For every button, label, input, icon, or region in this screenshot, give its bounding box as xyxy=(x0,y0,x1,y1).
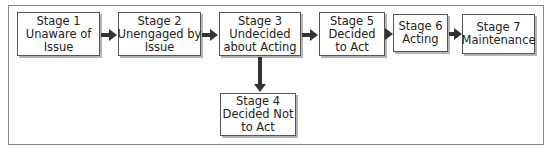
stage-1-line-2: Issue xyxy=(44,41,74,54)
stage-5-title: Stage 5 xyxy=(330,15,374,28)
stage-7-line-1: Maintenance xyxy=(461,34,535,47)
stage-7-box: Stage 7 Maintenance xyxy=(462,14,535,54)
stage-2-title: Stage 2 xyxy=(137,15,181,28)
arrow-stage6-to-stage7 xyxy=(449,32,455,36)
stage-3-line-1: Undecided xyxy=(229,28,290,41)
arrow-stage1-to-stage2 xyxy=(101,33,110,37)
stage-5-box: Stage 5 Decided to Act xyxy=(319,12,385,56)
stage-2-line-1: Unengaged by xyxy=(118,28,202,41)
arrow-stage2-to-stage3 xyxy=(202,33,211,37)
stage-3-line-2: about Acting xyxy=(223,41,296,54)
stage-4-line-2: to Act xyxy=(241,121,275,134)
stage-2-line-2: Issue xyxy=(145,41,175,54)
stage-3-box: Stage 3 Undecided about Acting xyxy=(219,12,301,56)
arrow-stage3-to-stage4 xyxy=(258,57,262,85)
stage-2-box: Stage 2 Unengaged by Issue xyxy=(118,12,201,56)
stage-5-line-1: Decided xyxy=(328,28,375,41)
stage-3-title: Stage 3 xyxy=(238,15,282,28)
stage-4-box: Stage 4 Decided Not to Act xyxy=(220,93,296,136)
stage-1-title: Stage 1 xyxy=(36,15,80,28)
stage-5-line-2: to Act xyxy=(335,41,369,54)
stage-1-line-1: Unaware of xyxy=(26,28,92,41)
stage-6-line-1: Acting xyxy=(402,33,438,46)
stage-6-box: Stage 6 Acting xyxy=(393,14,448,52)
stage-1-box: Stage 1 Unaware of Issue xyxy=(17,12,100,56)
arrow-stage3-to-stage5 xyxy=(302,33,311,37)
